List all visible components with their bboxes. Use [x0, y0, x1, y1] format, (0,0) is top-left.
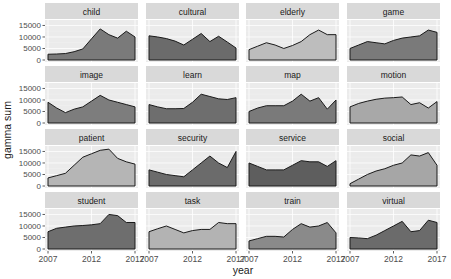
y-tick-label: 5000 — [23, 233, 41, 242]
facet-panel-virtual: virtual200720122017 — [341, 192, 447, 264]
facet-panel-task: task200720122017 — [140, 192, 246, 264]
facet-label: task — [185, 196, 201, 206]
facet-label: student — [78, 196, 107, 206]
facet-label: learn — [183, 70, 202, 80]
facet-panel-patient: patient050001000015000 — [19, 129, 138, 191]
facet-label: virtual — [382, 196, 405, 206]
facet-label: image — [80, 70, 103, 80]
facet-panel-child: child050001000015000 — [19, 3, 138, 65]
x-tick-label: 2007 — [39, 254, 58, 264]
facet-label: social — [383, 133, 405, 143]
y-tick-label: 5000 — [23, 107, 41, 116]
y-tick-label: 5000 — [23, 44, 41, 53]
facet-label: child — [83, 7, 101, 17]
y-tick-label: 10000 — [19, 33, 42, 42]
y-tick-label: 0 — [37, 245, 42, 254]
x-tick-label: 2012 — [183, 254, 202, 264]
x-tick-label: 2012 — [283, 254, 302, 264]
facet-label: map — [284, 70, 301, 80]
chart-canvas: child050001000015000culturalelderlygamei… — [0, 0, 451, 279]
facet-panel-image: image050001000015000 — [19, 66, 138, 128]
y-tick-label: 15000 — [19, 21, 42, 30]
y-tick-label: 5000 — [23, 170, 41, 179]
y-tick-label: 0 — [37, 56, 42, 65]
y-axis-title: gamma sum — [1, 101, 13, 159]
facet-panel-game: game — [347, 3, 440, 62]
facet-panel-social: social — [347, 129, 440, 188]
facet-label: security — [178, 133, 208, 143]
facet-panel-train: train200720122017 — [240, 192, 346, 264]
x-tick-label: 2012 — [384, 254, 403, 264]
x-tick-label: 2007 — [140, 254, 159, 264]
faceted-area-chart: child050001000015000culturalelderlygamei… — [0, 0, 451, 279]
facet-label: motion — [381, 70, 407, 80]
facet-panel-map: map — [246, 66, 339, 125]
facet-label: patient — [79, 133, 105, 143]
y-tick-label: 10000 — [19, 222, 42, 231]
x-tick-label: 2012 — [82, 254, 101, 264]
facet-panel-student: student050001000015000200720122017 — [19, 192, 145, 264]
facet-label: train — [284, 196, 301, 206]
facet-panel-elderly: elderly — [246, 3, 339, 62]
facet-panel-security: security — [146, 129, 239, 188]
x-tick-label: 2007 — [341, 254, 360, 264]
y-tick-label: 0 — [37, 119, 42, 128]
y-tick-label: 15000 — [19, 210, 42, 219]
facet-label: game — [383, 7, 405, 17]
y-tick-label: 10000 — [19, 96, 42, 105]
y-tick-label: 0 — [37, 182, 42, 191]
x-tick-label: 2007 — [240, 254, 259, 264]
x-axis-title: year — [233, 264, 254, 276]
facet-label: elderly — [280, 7, 306, 17]
facet-panel-learn: learn — [146, 66, 239, 125]
y-tick-label: 15000 — [19, 84, 42, 93]
x-tick-label: 2017 — [428, 254, 447, 264]
facet-label: service — [279, 133, 306, 143]
y-tick-label: 10000 — [19, 159, 42, 168]
y-tick-label: 15000 — [19, 147, 42, 156]
facet-panel-cultural: cultural — [146, 3, 239, 62]
facet-panel-service: service — [246, 129, 339, 188]
facet-label: cultural — [179, 7, 207, 17]
facet-panel-motion: motion — [347, 66, 440, 125]
